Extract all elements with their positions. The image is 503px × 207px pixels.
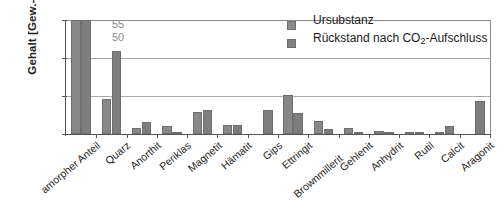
bar-gehlenit-series1 bbox=[344, 128, 354, 134]
bar-chart-figure: Gehalt [Gew.-%] 30 20 10 0 55 50 amorphe… bbox=[0, 0, 503, 207]
x-tick-label-rutil: Rutil bbox=[412, 139, 436, 162]
bar-magnetit-series1 bbox=[193, 112, 203, 134]
bar-periklas-series2 bbox=[172, 132, 182, 134]
x-tick-mark bbox=[490, 134, 491, 138]
x-tick-mark bbox=[217, 134, 218, 138]
bar-gehlenit-series2 bbox=[354, 132, 364, 134]
clipped-value-label-55: 55 bbox=[112, 18, 124, 30]
bar-periklas-series1 bbox=[162, 126, 172, 134]
bar-h-matit-series1 bbox=[223, 125, 233, 135]
bar-group bbox=[132, 20, 152, 134]
bar-quarz-series2 bbox=[112, 51, 122, 134]
bar-anorthit-series2 bbox=[142, 122, 152, 134]
x-tick-mark bbox=[369, 134, 370, 138]
x-tick-mark bbox=[96, 134, 97, 138]
x-tick-label-h-matit: Hämatit bbox=[218, 139, 253, 171]
bar-anorthit-series1 bbox=[132, 128, 142, 134]
bar-aragonit-series2 bbox=[475, 101, 485, 134]
bar-ettringit-series2 bbox=[293, 113, 303, 134]
x-tick-mark bbox=[278, 134, 279, 138]
bar-group bbox=[71, 20, 91, 134]
legend-swatch-icon bbox=[287, 21, 296, 30]
x-tick-label-gips: Gips bbox=[260, 139, 284, 162]
x-tick-mark bbox=[187, 134, 188, 138]
bar-rutil-series1 bbox=[405, 132, 415, 134]
bar-group bbox=[193, 20, 213, 134]
bar-calcit-series1 bbox=[435, 132, 445, 134]
bar-gips-series2 bbox=[263, 110, 273, 134]
bar-brownmillerit-series2 bbox=[324, 129, 334, 134]
x-tick-mark bbox=[248, 134, 249, 138]
bar-quarz-series1 bbox=[102, 99, 112, 134]
x-tick-mark bbox=[429, 134, 430, 138]
legend-label-rueckstand-main: Rückstand nach CO bbox=[313, 31, 420, 45]
bar-h-matit-series2 bbox=[233, 125, 243, 135]
clipped-value-label-50: 50 bbox=[112, 31, 124, 43]
x-tick-mark bbox=[308, 134, 309, 138]
bar-magnetit-series2 bbox=[203, 110, 213, 134]
bar-anhydrit-series1 bbox=[374, 131, 384, 134]
x-tick-label-amorpher-anteil: amorpher Anteil bbox=[38, 139, 102, 195]
legend-swatch-icon bbox=[287, 39, 296, 48]
bar-ettringit-series1 bbox=[283, 95, 293, 134]
x-tick-label-anhydrit: Anhydrit bbox=[368, 139, 405, 173]
bar-group bbox=[223, 20, 243, 134]
bar-brownmillerit-series1 bbox=[314, 121, 324, 134]
legend-label-rueckstand: Rückstand nach CO2-Aufschluss bbox=[313, 31, 487, 46]
legend-label-rueckstand-tail: -Aufschluss bbox=[425, 31, 487, 45]
y-axis-title: Gehalt [Gew.-%] bbox=[26, 0, 38, 100]
bar-group bbox=[162, 20, 182, 134]
x-tick-label-gehlenit: Gehlenit bbox=[337, 139, 375, 173]
bar-amorpher-anteil-series2 bbox=[81, 20, 91, 134]
bar-group bbox=[253, 20, 273, 134]
x-tick-label-aragonit: Aragonit bbox=[459, 139, 497, 173]
x-tick-mark bbox=[339, 134, 340, 138]
legend-label-ursubstanz: Ursubstanz bbox=[313, 13, 374, 27]
x-tick-mark bbox=[127, 134, 128, 138]
bar-calcit-series2 bbox=[445, 126, 455, 134]
x-tick-mark bbox=[399, 134, 400, 138]
x-tick-label-ettringit: Ettringit bbox=[280, 139, 315, 171]
chart-legend: Ursubstanz Rückstand nach CO2-Aufschluss bbox=[287, 16, 490, 57]
x-tick-label-magnetit: Magnetit bbox=[185, 139, 224, 174]
x-tick-label-anorthit: Anorthit bbox=[128, 139, 163, 171]
x-tick-mark bbox=[157, 134, 158, 138]
bar-anhydrit-series2 bbox=[384, 132, 394, 134]
x-tick-mark bbox=[460, 134, 461, 138]
bar-rutil-series2 bbox=[415, 132, 425, 134]
bar-amorpher-anteil-series1 bbox=[71, 20, 81, 134]
